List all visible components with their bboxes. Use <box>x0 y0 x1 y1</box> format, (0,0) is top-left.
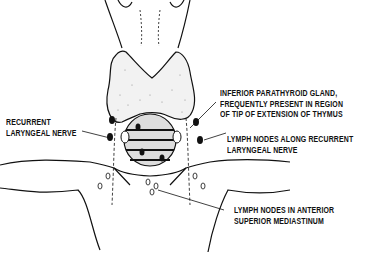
label-line: OF TIP OF EXTENSION OF THYMUS <box>220 110 343 119</box>
label-line: LARYNGEAL NERVE <box>6 129 77 138</box>
label-line: INFERIOR PARATHYROID GLAND, <box>220 89 337 98</box>
label-line: SUPERIOR MEDIASTINUM <box>234 217 324 226</box>
larynx-outline <box>105 0 190 48</box>
left-recurrent-nerve <box>112 118 116 205</box>
label-inferior-parathyroid: INFERIOR PARATHYROID GLAND,FREQUENTLY PR… <box>220 89 343 121</box>
label-line: LYMPH NODES ALONG RECURRENT <box>227 135 353 144</box>
label-line: RECURRENT <box>6 118 51 127</box>
right-recurrent-nerve <box>186 118 190 205</box>
trachea <box>124 114 176 166</box>
label-lymph-nodes-recurrent: LYMPH NODES ALONG RECURRENTLARYNGEAL NER… <box>227 135 353 156</box>
label-recurrent-laryngeal-nerve: RECURRENTLARYNGEAL NERVE <box>6 118 77 139</box>
thyroid-gland <box>107 51 195 122</box>
label-line: LYMPH NODES IN ANTERIOR <box>234 206 334 215</box>
label-lymph-nodes-mediastinum: LYMPH NODES IN ANTERIORSUPERIOR MEDIASTI… <box>234 206 334 227</box>
diagram-canvas: RECURRENTLARYNGEAL NERVE INFERIOR PARATH… <box>0 0 375 274</box>
label-line: LARYNGEAL NERVE <box>227 146 298 155</box>
label-line: FREQUENTLY PRESENT IN REGION <box>220 100 343 109</box>
